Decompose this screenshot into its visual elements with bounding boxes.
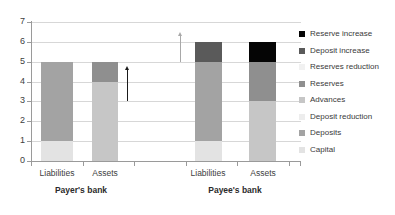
x-axis-category-label: Assets xyxy=(233,168,293,178)
x-axis-category-label: Liabilities xyxy=(178,168,238,178)
bar-segment-advances xyxy=(249,101,276,161)
bar-segment-reserves xyxy=(249,62,276,102)
bar-segment-deposits xyxy=(195,62,222,141)
legend-label: Deposit increase xyxy=(310,45,370,57)
bar-segment-advances xyxy=(92,82,118,161)
legend-swatch-deposit-reduction xyxy=(299,114,305,120)
legend-label: Deposit reduction xyxy=(310,111,372,123)
bar-segment-reserves xyxy=(92,62,118,82)
legend-label: Reserves xyxy=(310,78,344,90)
bar-segment-reserve-increase xyxy=(249,42,276,62)
y-axis-tick-label: 3 xyxy=(3,96,25,105)
arrow-shaft xyxy=(127,70,128,102)
y-axis-line xyxy=(31,21,32,162)
x-axis-tick-mark xyxy=(289,162,290,166)
legend-item: Reserves xyxy=(299,78,393,95)
bar-segment-capital xyxy=(41,141,73,161)
x-axis-tick-mark xyxy=(31,162,32,166)
legend-swatch-deposits xyxy=(299,130,305,136)
stacked-bar-chart: 01234567 LiabilitiesAssetsLiabilitiesAss… xyxy=(0,0,395,215)
bar-payeesbank-assets xyxy=(249,22,276,161)
bar-payeesbank-liabilities xyxy=(195,22,222,161)
legend-item: Deposit increase xyxy=(299,45,393,62)
x-axis-tick-mark xyxy=(83,162,84,166)
x-axis-category-label: Assets xyxy=(75,168,135,178)
y-axis-tick-label: 7 xyxy=(3,17,25,26)
up-arrow-icon xyxy=(178,32,183,62)
bar-segment-deposit-increase xyxy=(195,42,222,62)
legend-item: Reserves reduction xyxy=(299,61,393,78)
legend-swatch-capital xyxy=(299,147,305,153)
legend-item: Deposits xyxy=(299,127,393,144)
x-axis-tick-mark xyxy=(134,162,135,166)
y-axis-tick-label: 2 xyxy=(3,116,25,125)
x-axis-tick-mark xyxy=(300,162,301,166)
chart-legend: Reserve increaseDeposit increaseReserves… xyxy=(299,28,393,160)
legend-swatch-advances xyxy=(299,97,305,103)
legend-swatch-reserve-increase xyxy=(299,31,305,37)
legend-label: Capital xyxy=(310,144,335,156)
arrow-shaft xyxy=(180,36,181,62)
up-arrow-icon xyxy=(125,66,130,102)
x-axis-line xyxy=(31,161,301,162)
x-axis-tick-mark xyxy=(186,162,187,166)
bar-payersbank-liabilities xyxy=(41,22,73,161)
y-axis-tick-label: 6 xyxy=(3,37,25,46)
legend-swatch-reserves xyxy=(299,81,305,87)
legend-label: Deposits xyxy=(310,127,341,139)
legend-swatch-reserves-reduction xyxy=(299,64,305,70)
bar-segment-capital xyxy=(195,141,222,161)
legend-label: Reserve increase xyxy=(310,28,372,40)
y-axis-tick-label: 5 xyxy=(3,57,25,66)
y-axis-tick-label: 4 xyxy=(3,77,25,86)
x-axis-tick-mark xyxy=(237,162,238,166)
legend-item: Capital xyxy=(299,144,393,161)
y-axis-tick-label: 1 xyxy=(3,136,25,145)
legend-item: Reserve increase xyxy=(299,28,393,45)
legend-item: Advances xyxy=(299,94,393,111)
y-axis-tick-label: 0 xyxy=(3,156,25,165)
bar-segment-deposits xyxy=(41,62,73,141)
legend-item: Deposit reduction xyxy=(299,111,393,128)
x-axis-group-label: Payee's bank xyxy=(190,185,280,195)
legend-label: Advances xyxy=(310,94,345,106)
x-axis-group-label: Payer's bank xyxy=(36,185,126,195)
bar-payersbank-assets xyxy=(92,22,118,161)
legend-label: Reserves reduction xyxy=(310,61,379,73)
legend-swatch-deposit-increase xyxy=(299,48,305,54)
